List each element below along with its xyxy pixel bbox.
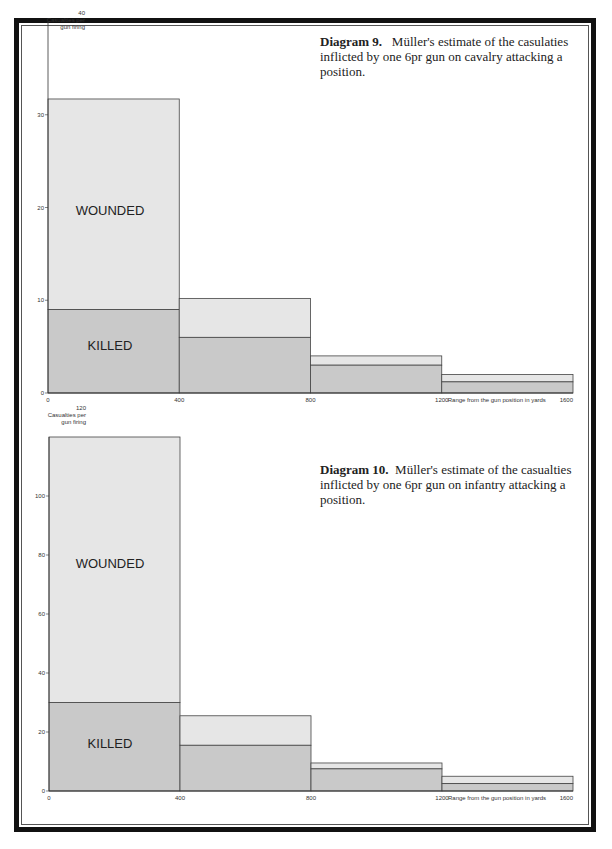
x-tick-label: 800 xyxy=(305,397,316,403)
wounded-bar xyxy=(311,763,442,769)
killed-label: KILLED xyxy=(88,736,133,751)
diagram-10-chart: 020406080100120Casualties pergun firing0… xyxy=(35,405,574,801)
y-axis-label: Casualties per xyxy=(47,17,85,23)
y-tick-label: 10 xyxy=(37,297,44,303)
wounded-label: WOUNDED xyxy=(76,556,145,571)
y-axis-label-2: gun firing xyxy=(61,419,86,425)
x-axis-label: Range from the gun position in yards xyxy=(448,795,546,801)
killed-bar xyxy=(180,745,311,791)
x-axis-label: Range from the gun position in yards xyxy=(448,397,546,403)
y-tick-label: 0 xyxy=(41,390,45,396)
x-tick-label: 800 xyxy=(306,795,317,801)
wounded-bar xyxy=(442,374,573,381)
y-tick-label: 0 xyxy=(42,788,46,794)
x-tick-label: 1600 xyxy=(560,795,574,801)
y-max-label: 120 xyxy=(76,405,87,411)
killed-bar xyxy=(179,337,310,393)
killed-bar xyxy=(311,769,442,791)
y-tick-label: 60 xyxy=(38,611,45,617)
x-tick-label: 0 xyxy=(47,795,51,801)
wounded-bar xyxy=(179,298,310,337)
y-axis-label-2: gun firing xyxy=(60,24,85,30)
y-tick-label: 40 xyxy=(38,670,45,676)
wounded-bar xyxy=(442,776,573,783)
charts-canvas: 010203040Casualties pergun firing0400800… xyxy=(0,0,612,849)
y-tick-label: 30 xyxy=(37,112,44,118)
diagram-9-chart: 010203040Casualties pergun firing0400800… xyxy=(37,10,573,403)
y-tick-label: 80 xyxy=(38,552,45,558)
wounded-label: WOUNDED xyxy=(76,203,145,218)
killed-bar xyxy=(442,784,573,791)
killed-label: KILLED xyxy=(88,338,133,353)
y-max-label: 40 xyxy=(78,10,85,16)
y-tick-label: 20 xyxy=(38,729,45,735)
killed-bar xyxy=(311,365,442,393)
x-tick-label: 400 xyxy=(174,397,185,403)
y-tick-label: 100 xyxy=(35,493,46,499)
killed-bar xyxy=(442,382,573,393)
wounded-bar xyxy=(311,356,442,365)
y-tick-label: 20 xyxy=(37,205,44,211)
x-tick-label: 400 xyxy=(175,795,186,801)
wounded-bar xyxy=(180,716,311,746)
x-tick-label: 1600 xyxy=(560,397,574,403)
y-axis-label: Casualties per xyxy=(48,412,86,418)
x-tick-label: 0 xyxy=(46,397,50,403)
